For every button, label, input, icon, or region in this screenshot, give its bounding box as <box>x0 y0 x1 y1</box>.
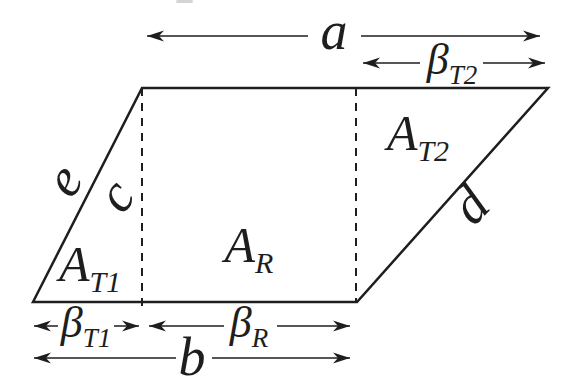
label-c: c <box>84 169 147 222</box>
label-area-r: AR <box>222 217 274 279</box>
label-beta-t1: βT1 <box>60 298 111 353</box>
dashed-lines <box>142 88 356 306</box>
label-e: e <box>32 153 95 206</box>
figure-canvas: a βT2 e c d AT1 AR AT2 βT1 βR b <box>0 0 565 388</box>
label-b: b <box>179 327 206 387</box>
label-area-t2: AT2 <box>384 105 449 167</box>
parallelogram-decomposition-diagram: a βT2 e c d AT1 AR AT2 βT1 βR b <box>0 0 565 388</box>
label-a: a <box>321 1 348 61</box>
label-d: d <box>439 174 502 236</box>
label-area-t1: AT1 <box>56 236 121 298</box>
label-beta-r: βR <box>229 298 269 353</box>
labels: a βT2 e c d AT1 AR AT2 βT1 βR b <box>32 1 502 387</box>
scan-artifact <box>176 0 193 3</box>
label-beta-t2: βT2 <box>426 35 477 90</box>
